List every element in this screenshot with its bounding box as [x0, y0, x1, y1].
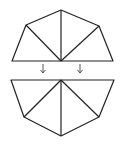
- bottom-fan-shape: [11, 80, 114, 136]
- spoke-line: [61, 26, 99, 61]
- outline: [12, 10, 113, 61]
- down-arrow-icon: [78, 64, 83, 73]
- down-arrows: [41, 64, 83, 73]
- down-arrow-icon: [41, 64, 46, 73]
- outline: [11, 80, 114, 136]
- spoke-line: [61, 80, 99, 117]
- spoke-line: [26, 25, 61, 61]
- top-fan-shape: [12, 10, 113, 61]
- spoke-line: [24, 80, 61, 117]
- triangulation-diagram: [0, 0, 123, 148]
